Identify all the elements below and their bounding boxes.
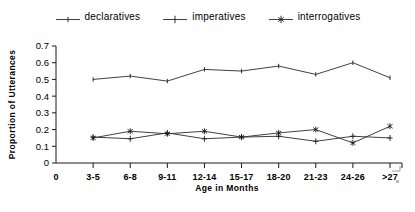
y-tick-label: 0.6 bbox=[36, 57, 49, 68]
chart-figure: declaratives imperatives bbox=[0, 0, 415, 212]
x-tick-label: >27 bbox=[382, 172, 398, 182]
data-point-interrogatives-8 bbox=[387, 123, 392, 129]
corner-dot-artifact bbox=[396, 180, 399, 183]
x-tick-label: 3-5 bbox=[86, 172, 100, 182]
x-tick-label: 9-11 bbox=[158, 172, 176, 182]
y-tick-label: 0.2 bbox=[36, 124, 49, 135]
y-tick-label: 0.1 bbox=[36, 141, 49, 152]
data-point-imperatives-3 bbox=[202, 136, 207, 142]
x-tick-label: 15-17 bbox=[230, 172, 254, 182]
y-tick-label: 0.7 bbox=[36, 40, 49, 51]
data-point-imperatives-7 bbox=[350, 133, 355, 139]
y-axis-title: Proportion of Utterances bbox=[7, 50, 17, 160]
chart-plot-area: 00.10.20.30.40.50.60.703-56-89-1112-1415… bbox=[0, 0, 415, 212]
x-tick-label: 18-20 bbox=[267, 172, 291, 182]
data-point-imperatives-6 bbox=[313, 138, 318, 144]
corner-artifact bbox=[392, 166, 400, 171]
y-tick-label: 0.4 bbox=[36, 91, 49, 102]
data-point-interrogatives-7 bbox=[350, 140, 355, 146]
x-tick-label: 12-14 bbox=[192, 172, 216, 182]
y-tick-label: 0.5 bbox=[36, 74, 49, 85]
x-tick-label: 0 bbox=[53, 172, 58, 182]
x-tick-label: 21-23 bbox=[304, 172, 328, 182]
y-tick-label: 0.3 bbox=[36, 107, 49, 118]
y-tick-label: 0 bbox=[44, 157, 49, 168]
x-tick-label: 24-26 bbox=[341, 172, 365, 182]
data-point-imperatives-8 bbox=[387, 135, 392, 141]
data-point-imperatives-1 bbox=[128, 136, 133, 142]
x-axis-title: Age in Months bbox=[195, 183, 259, 193]
x-tick-label: 6-8 bbox=[123, 172, 137, 182]
